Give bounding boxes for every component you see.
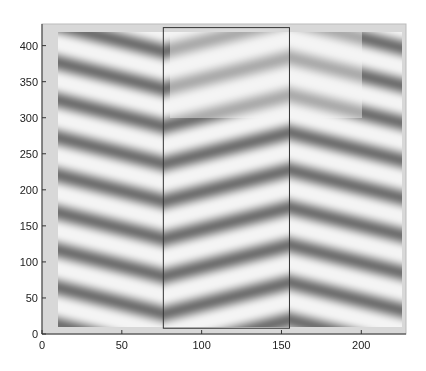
x-tick-label: 200 (352, 339, 370, 351)
x-tick-label: 100 (192, 339, 210, 351)
y-tick-label: 200 (20, 184, 38, 196)
overlay-rectangle (163, 28, 289, 329)
x-tick-label: 0 (39, 339, 45, 351)
y-tick-label: 100 (20, 256, 38, 268)
y-tick-label: 300 (20, 112, 38, 124)
figure: 050100150200 050100150200250300350400 (0, 0, 426, 371)
x-axis: 050100150200 (39, 330, 371, 351)
overlay-layer (163, 28, 289, 329)
x-tick-label: 50 (116, 339, 128, 351)
y-tick-label: 350 (20, 76, 38, 88)
y-tick-label: 400 (20, 40, 38, 52)
axes-frame (42, 24, 406, 334)
y-tick-label: 150 (20, 220, 38, 232)
y-tick-label: 250 (20, 148, 38, 160)
y-tick-label: 50 (26, 292, 38, 304)
axes: 050100150200 050100150200250300350400 (0, 0, 426, 371)
y-tick-label: 0 (32, 328, 38, 340)
x-tick-label: 150 (272, 339, 290, 351)
